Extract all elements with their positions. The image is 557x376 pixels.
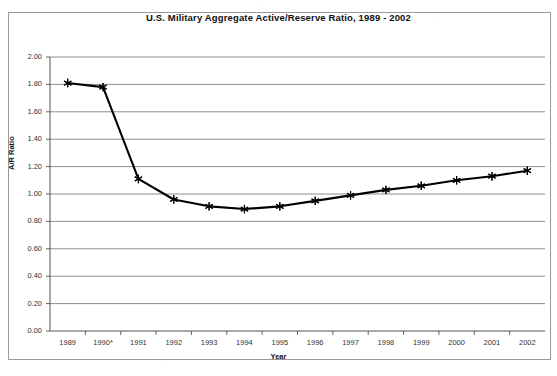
y-tick-label: 1.00 (12, 189, 42, 198)
x-axis-title: Year (0, 352, 557, 361)
plot-area: A/R Ratio Year 0.000.200.400.600.801.001… (0, 0, 557, 376)
y-tick-label: 0.40 (12, 271, 42, 280)
x-tick-label: 2001 (472, 338, 512, 347)
y-tick-label: 1.20 (12, 162, 42, 171)
x-tick-label: 2000 (437, 338, 477, 347)
x-tick-label: 1997 (331, 338, 371, 347)
data-point-marker (135, 175, 142, 183)
y-tick-label: 1.40 (12, 134, 42, 143)
chart-svg (0, 0, 557, 376)
x-tick-marks-group (85, 331, 509, 335)
data-point-markers-group (64, 79, 531, 213)
x-tick-label: 1996 (295, 338, 335, 347)
data-series-line (68, 83, 528, 209)
x-tick-label: 1994 (224, 338, 264, 347)
y-tick-label: 2.00 (12, 52, 42, 61)
x-tick-label: 1993 (189, 338, 229, 347)
x-tick-label: 1989 (48, 338, 88, 347)
y-tick-label: 0.20 (12, 299, 42, 308)
x-tick-label: 1995 (260, 338, 300, 347)
y-tick-label: 0.00 (12, 326, 42, 335)
y-tick-label: 0.60 (12, 244, 42, 253)
x-tick-label: 1992 (154, 338, 194, 347)
y-tick-label: 0.80 (12, 216, 42, 225)
x-tick-label: 2002 (507, 338, 547, 347)
x-tick-label: 1998 (366, 338, 406, 347)
gridlines-group (46, 57, 545, 331)
y-tick-label: 1.80 (12, 79, 42, 88)
x-tick-label: 1991 (118, 338, 158, 347)
y-tick-label: 1.60 (12, 107, 42, 116)
x-tick-label: 1999 (401, 338, 441, 347)
x-tick-label: 1990* (83, 338, 123, 347)
